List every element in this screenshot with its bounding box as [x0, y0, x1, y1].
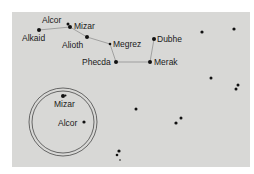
star-alioth [85, 35, 89, 39]
label-alcor: Alcor [42, 15, 62, 25]
star-megrez [109, 43, 112, 46]
star-merak [148, 60, 152, 64]
label-megrez: Megrez [113, 39, 141, 49]
star-chart: Alcor Mizar Alkaid Alioth Megrez Dubhe P… [0, 0, 254, 174]
inset-star-alcor [82, 120, 85, 123]
inset-star-mizar [61, 94, 65, 98]
star-alcor [67, 23, 70, 26]
label-inset-alcor: Alcor [58, 118, 78, 128]
label-inset-mizar: Mizar [54, 99, 75, 109]
label-merak: Merak [154, 57, 178, 67]
star-mizar [68, 25, 72, 29]
star-dubhe [152, 37, 156, 41]
label-alkaid: Alkaid [22, 33, 45, 43]
star-phecda [114, 60, 118, 64]
label-mizar: Mizar [74, 21, 95, 31]
star-alkaid [37, 28, 41, 32]
inset-star-mizar-companion [65, 95, 67, 97]
label-alioth: Alioth [62, 40, 84, 50]
label-dubhe: Dubhe [157, 34, 182, 44]
label-phecda: Phecda [82, 57, 111, 67]
